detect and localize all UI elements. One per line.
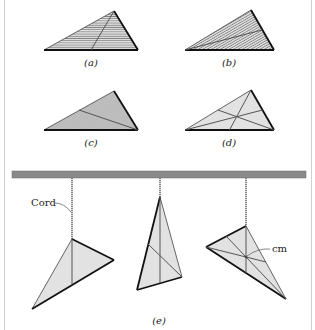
triangle-c — [44, 91, 138, 130]
triangle-d — [185, 90, 274, 130]
hanging-triangle-middle — [137, 197, 182, 290]
triangle-a — [44, 11, 138, 50]
centroid-diagram: (a) (b) (c) (d) Cord — [0, 0, 315, 330]
panel-label-c: (c) — [84, 137, 98, 148]
triangle-b — [185, 10, 274, 50]
hanging-triangle-left — [32, 239, 114, 309]
cord-leader-line — [55, 203, 71, 212]
hanging-triangle-right — [206, 226, 286, 299]
cm-label: cm — [272, 243, 288, 254]
cord-label: Cord — [31, 197, 56, 208]
panel-label-a: (a) — [84, 57, 98, 68]
center-of-mass-point — [245, 256, 248, 259]
panel-label-b: (b) — [222, 57, 236, 68]
support-bar — [12, 171, 306, 178]
panel-label-e: (e) — [152, 315, 166, 326]
panel-label-d: (d) — [222, 137, 236, 148]
